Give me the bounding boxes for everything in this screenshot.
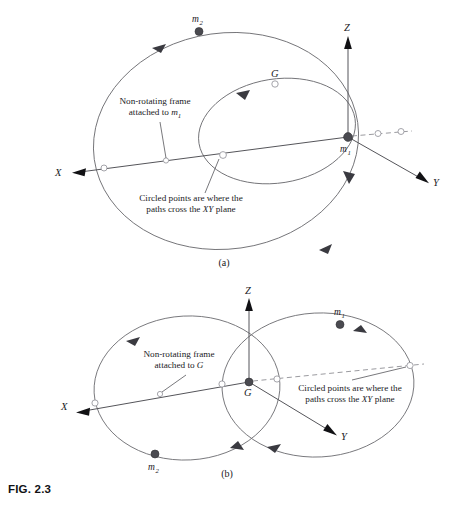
panel-a-point-m1-label: m: [340, 144, 347, 154]
panel-a-crossing-note-line1: Circled points are where the: [139, 193, 243, 203]
panel-b-orbit-m2-arrow-top: [126, 337, 140, 346]
panel-b-axis-y-arrowhead: [323, 424, 337, 436]
panel-a-crossing-circle-3: [375, 131, 381, 137]
panel-b-axis-x-arrowhead: [76, 408, 90, 416]
panel-b-point-m2-label: m: [148, 462, 155, 472]
panel-b-crossing-note-leader: [352, 367, 406, 380]
panel-b-crossing-note-prefix: paths cross the: [305, 394, 361, 404]
panel-a: X Y Z m 2: [54, 14, 440, 269]
panel-a-point-m2: [195, 28, 203, 36]
panel-a-point-g: [272, 81, 278, 87]
panel-a-frame-note-line1: Non-rotating frame: [119, 96, 190, 106]
panel-a-axis-z-label: Z: [344, 22, 350, 33]
panel-a-frame-note-leader: [160, 122, 166, 158]
panel-b-crossing-circle-1: [219, 381, 225, 387]
panel-b-crossing-note-line2: paths cross the XY plane: [305, 394, 394, 404]
panel-b-label: (b): [221, 468, 233, 480]
panel-b-point-m1: [336, 321, 344, 329]
panel-a-axis-x-arrowhead: [72, 168, 86, 176]
panel-a-crossing-circle-4: [398, 129, 404, 135]
panel-b: X Y Z m 1: [60, 285, 424, 480]
panel-b-crossing-circle-4: [407, 362, 413, 368]
panel-a-axis-z-arrowhead: [344, 36, 352, 49]
panel-b-crossing-circle-2: [274, 376, 280, 382]
panel-a-orbit-m2-arrow-bottom: [319, 244, 332, 254]
panel-b-axis-z-arrowhead: [245, 298, 253, 311]
panel-a-point-m1-subscript: 1: [348, 149, 351, 156]
panel-b-point-m2: [151, 450, 159, 458]
panel-b-frame-note-leader: [162, 375, 186, 392]
panel-a-crossing-note-italic: XY: [202, 204, 215, 214]
panel-b-frame-note-line2: attached to G: [155, 360, 204, 370]
panel-a-point-g-label: G: [271, 68, 279, 79]
panel-a-crossing-circle-1: [101, 165, 107, 171]
panel-b-axis-z-label: Z: [245, 285, 251, 296]
panel-a-orbit-g-arrow-bottom: [343, 171, 355, 184]
panel-b-point-m2-subscript: 2: [156, 467, 160, 474]
panel-a-frame-leader-node: [163, 158, 168, 163]
panel-b-axis-y-label: Y: [341, 431, 348, 442]
panel-b-crossing-note-italic: XY: [361, 394, 374, 404]
panel-b-crossing-circle-3: [92, 400, 98, 406]
panel-a-point-m2-label: m: [192, 14, 199, 24]
panel-b-frame-leader-node: [157, 391, 162, 396]
panel-a-point-m2-subscript: 2: [200, 19, 204, 26]
panel-a-crossing-circle-2: [220, 152, 227, 159]
panel-a-label: (a): [218, 257, 229, 269]
panel-b-crossing-note-suffix: plane: [372, 394, 394, 404]
panel-b-orbit-m1-arrow-top: [353, 325, 367, 333]
panel-a-frame-note-prefix: attached to: [129, 107, 171, 117]
panel-a-frame-note-subscript: 1: [178, 112, 181, 119]
panel-b-frame-note-prefix: attached to: [155, 360, 197, 370]
panel-b-point-g-label: G: [244, 387, 252, 398]
panel-a-crossing-note-line2: paths cross the XY plane: [146, 204, 235, 214]
figure-canvas: X Y Z m 2: [0, 0, 457, 512]
panel-a-point-m1: [344, 133, 353, 142]
panel-a-axis-y-line: [348, 137, 422, 179]
panel-a-orbit-g-arrow-top: [236, 90, 250, 100]
panel-a-orbit-m2: [79, 16, 372, 267]
panel-b-frame-note-line1: Non-rotating frame: [143, 349, 214, 359]
panel-b-crossing-note-line1: Circled points are where the: [298, 383, 402, 393]
panel-a-frame-note-line2: attached to m1: [129, 107, 181, 119]
figure-2-3: X Y Z m 2: [0, 0, 457, 512]
panel-a-axis-y-label: Y: [433, 177, 440, 188]
panel-a-crossing-note-prefix: paths cross the: [146, 204, 202, 214]
panel-a-axis-y-arrowhead: [416, 172, 430, 184]
panel-a-axis-x-line: [80, 137, 348, 172]
figure-caption-id: FIG. 2.3: [8, 483, 51, 495]
panel-b-orbit-m2: [90, 311, 283, 465]
panel-a-crossing-note-suffix: plane: [213, 204, 235, 214]
panel-b-point-m1-subscript: 1: [342, 312, 345, 319]
panel-b-point-g: [245, 378, 253, 386]
panel-b-axis-x-label: X: [60, 401, 68, 412]
panel-b-point-m1-label: m: [334, 307, 341, 317]
panel-a-axis-x-label: X: [54, 167, 62, 178]
panel-a-crossing-note-leader: [205, 159, 219, 193]
panel-b-frame-note-symbol: G: [197, 360, 204, 370]
